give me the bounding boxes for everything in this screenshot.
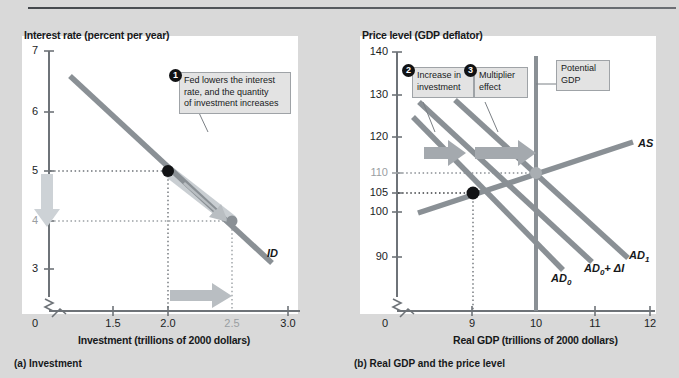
panel-b-ad1-curve bbox=[455, 100, 628, 258]
panel-a-origin-label: 0 bbox=[16, 317, 38, 329]
panel-b-callout-badge-2: 2 bbox=[402, 64, 415, 77]
panel-b-ad0-curve-label: AD0 bbox=[551, 272, 571, 287]
panel-a-x-axis-title: Investment (trillions of 2000 dollars) bbox=[78, 334, 250, 346]
panel-a-caption: (a) Investment bbox=[14, 358, 82, 369]
panel-b-xtick-label-10: 10 bbox=[521, 317, 551, 329]
panel-a-ytick-label-6: 6 bbox=[16, 105, 38, 117]
figure-container: Interest rate (percent per year) bbox=[0, 0, 679, 378]
panel-a-xtick-label-2-5: 2.5 bbox=[217, 317, 247, 329]
panel-b-ad0-label-sub: 0 bbox=[567, 278, 571, 287]
panel-a-xtick-label-1-5: 1.5 bbox=[98, 317, 128, 329]
panel-b-ytick-label-130: 130 bbox=[354, 88, 388, 100]
panel-b-callout-badge-3: 3 bbox=[464, 64, 477, 77]
panel-a-ytick-label-5: 5 bbox=[16, 164, 38, 176]
panel-b-ytick-label-140: 140 bbox=[354, 45, 388, 57]
top-divider-rule bbox=[28, 7, 676, 9]
panel-a-callout-badge-1: 1 bbox=[169, 69, 182, 82]
panel-a-movement-arrow bbox=[183, 182, 228, 222]
panel-b-ytick-label-90: 90 bbox=[354, 250, 388, 262]
panel-a-id-curve-label: ID bbox=[267, 247, 278, 259]
panel-b-real-gdp-price-level: Price level (GDP deflator) bbox=[340, 14, 679, 378]
panel-b-point-new bbox=[530, 167, 542, 179]
panel-a-ytick-label-3: 3 bbox=[16, 262, 38, 274]
panel-b-xtick-label-9: 9 bbox=[457, 317, 487, 329]
panel-a-xtick-label-2-0: 2.0 bbox=[153, 317, 183, 329]
panel-a-point-initial bbox=[162, 165, 174, 177]
panel-b-ad0-label-text: AD bbox=[551, 272, 567, 284]
panel-b-ad-delta-label-rest: + ΔI bbox=[604, 262, 624, 274]
panel-b-caption: (b) Real GDP and the price level bbox=[354, 358, 505, 369]
panel-b-ad1-curve-label: AD1 bbox=[629, 249, 649, 264]
panel-a-point-new bbox=[227, 216, 238, 227]
panel-b-y-axis-break-icon bbox=[393, 299, 401, 311]
panel-b-callout-3: Multiplier effect bbox=[474, 67, 528, 98]
panel-a-investment-right-arrow bbox=[170, 283, 232, 308]
panel-b-ytick-label-100: 100 bbox=[354, 205, 388, 217]
panel-a-callout-1: Fed lowers the interest rate, and the qu… bbox=[179, 72, 291, 114]
panel-a-ytick-label-4: 4 bbox=[16, 214, 38, 226]
panel-b-origin-label: 0 bbox=[354, 317, 388, 329]
panel-b-point-initial bbox=[467, 187, 480, 200]
panel-b-ytick-label-120: 120 bbox=[354, 130, 388, 142]
panel-a-xtick-label-3-0: 3.0 bbox=[273, 317, 303, 329]
panel-b-ad1-label-sub: 1 bbox=[645, 255, 649, 264]
panel-b-xtick-label-11: 11 bbox=[580, 317, 610, 329]
panel-b-callout-potential-gdp: Potential GDP bbox=[556, 60, 610, 91]
panel-a-y-axis-break-icon bbox=[45, 299, 53, 311]
panel-b-xtick-label-12: 12 bbox=[635, 317, 665, 329]
panel-b-ad-delta-label-text: AD bbox=[584, 262, 600, 274]
panel-b-x-axis-title: Real GDP (trillions of 2000 dollars) bbox=[453, 334, 618, 346]
panel-b-as-curve-label: AS bbox=[638, 137, 653, 149]
panel-b-ytick-label-105: 105 bbox=[354, 186, 388, 198]
panel-a-investment: Interest rate (percent per year) bbox=[0, 14, 340, 378]
panel-b-ytick-label-110: 110 bbox=[354, 166, 388, 178]
panel-b-ad1-label-text: AD bbox=[629, 249, 645, 261]
panel-a-ytick-label-7: 7 bbox=[16, 44, 38, 56]
panel-b-ad-delta-curve-label: AD0+ ΔI bbox=[584, 262, 624, 277]
